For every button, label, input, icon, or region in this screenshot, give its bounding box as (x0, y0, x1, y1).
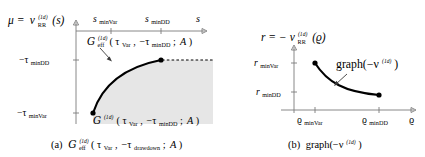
panel-a-yaxis-label-arg: (s) (52, 14, 64, 27)
panel-a-curve-label-arg2-sub: minDD (152, 41, 171, 48)
panel-b-curve-endpoint-right (376, 92, 381, 97)
panel-b-ytick-label-mindd-sub: minDD (262, 91, 281, 98)
panel-a-region-label-arg1-sub: Var (129, 120, 138, 127)
panel-a-caption-symbol: G (68, 138, 76, 150)
panel-a-label-pointer-arrowhead (107, 57, 112, 62)
panel-b-curve-label: graph(−ν (1d) ) (336, 52, 398, 71)
panel-a-yaxis-label-lhs: μ = (7, 14, 24, 27)
panel-b-yaxis-label-arg: (ϱ) (312, 31, 326, 44)
panel-a-xtick-label-minvar-base: s (93, 13, 97, 24)
panel-a-ytick-label-mindd-base: −τ (19, 54, 28, 65)
panel-b-yaxis-label: r = − ν (1d) RR (ϱ) (261, 26, 326, 46)
panel-b-ytick-label-minvar-sub: minVar (260, 62, 278, 69)
panel-a-yaxis-label-nu-sub: RR (38, 21, 47, 28)
panel-a-ytick-label-minvar: −τ minVar (17, 107, 47, 119)
panel-a-caption-comma: , (115, 139, 118, 150)
panel-b-xtick-label-mindd-sub: minDD (369, 119, 388, 126)
panel-a-caption-arg1-sub: Var (104, 144, 113, 151)
panel-b-caption-sup: (1d) (346, 139, 355, 146)
panel-b-yaxis-label-nu-sub: RR (298, 38, 307, 45)
panel-b-yaxis-label-nu: ν (290, 31, 296, 43)
panel-a-yaxis-label-nu: ν (30, 14, 36, 26)
panel-a-curve-label-sub: eff (97, 41, 105, 48)
panel-a-xtick-label-mindd-base: s (145, 13, 149, 24)
panel-b: r = − ν (1d) RR (ϱ) r minVar r minDD ϱ m… (254, 26, 416, 151)
panel-a: μ = ν (1d) RR (s) s minVar s minDD −τ mi… (7, 9, 213, 152)
panel-a-caption-sub: eff (79, 144, 87, 151)
panel-a-caption-arg1: τ (97, 139, 101, 150)
panel-a-curve-label-open: ( (109, 36, 113, 48)
panel-a-caption-semicolon: ; (163, 139, 166, 150)
panel-a-region-label-semicolon: ; (180, 115, 183, 126)
panel-b-caption-text: graph(−ν (306, 139, 344, 151)
panel-a-caption-open: ( (91, 139, 95, 151)
panel-b-curve-label-close: ) (394, 57, 398, 71)
panel-b-ytick-label-minvar: r minVar (254, 57, 278, 69)
panel-a-curve-label: G (1d) eff ( τ Var , −τ minDD ; A ) (87, 31, 192, 49)
panel-b-curve-label-text: graph(−ν (336, 57, 379, 71)
panel-b-caption-prefix: (b) (288, 139, 300, 151)
panel-a-yaxis-label: μ = ν (1d) RR (s) (7, 9, 65, 29)
panel-a-curve-label-close: ) (189, 36, 192, 48)
panel-b-xaxis-label: ϱ (409, 114, 414, 125)
panel-a-region-label-sup: (1d) (104, 114, 113, 121)
panel-b-xtick-label-minvar: ϱ minVar (297, 114, 323, 126)
panel-a-label-pointer (100, 48, 110, 59)
panel-b-ytick-label-mindd: r minDD (256, 86, 281, 98)
panel-a-caption: (a) G (1d) eff ( τ Var , −τ drawdown ; A… (51, 134, 182, 152)
panel-b-caption: (b) graph(−ν (1d) ) (288, 135, 362, 151)
figure-canvas: μ = ν (1d) RR (s) s minVar s minDD −τ mi… (0, 0, 425, 157)
panel-a-region-label-arg1: τ (122, 115, 126, 126)
panel-a-caption-close: ) (179, 139, 182, 151)
panel-b-curve-endpoint-left (312, 60, 317, 65)
panel-b-xtick-label-minvar-base: ϱ (297, 114, 302, 125)
panel-b-curve-label-sup: (1d) (382, 58, 391, 65)
panel-b-xtick-label-minvar-sub: minVar (304, 119, 322, 126)
panel-a-region-label-arg2-sub: minDD (159, 120, 178, 127)
panel-b-xtick-label-mindd: ϱ minDD (362, 114, 388, 126)
panel-a-curve-endpoint-upper (158, 57, 163, 62)
panel-a-region-label-close: ) (196, 115, 199, 127)
panel-a-curve-label-symbol: G (87, 36, 95, 47)
panel-b-ytick-label-minvar-base: r (254, 57, 258, 68)
figure-root: μ = ν (1d) RR (s) s minVar s minDD −τ mi… (0, 0, 425, 157)
panel-b-xtick-label-mindd-base: ϱ (362, 114, 367, 125)
panel-a-caption-arg3: A (169, 139, 177, 150)
panel-a-region-label-arg3: A (186, 115, 194, 126)
panel-a-curve-label-arg1: τ (115, 36, 119, 47)
panel-a-curve-label-semicolon: ; (173, 36, 176, 47)
panel-b-caption-close: ) (358, 139, 361, 151)
panel-a-ytick-label-minvar-sub: minVar (29, 112, 47, 119)
panel-b-yaxis-label-lhs: r = − (261, 31, 287, 43)
panel-a-caption-prefix: (a) (51, 139, 63, 151)
panel-a-xtick-label-mindd: s minDD (145, 13, 170, 25)
panel-a-xtick-label-minvar: s minVar (93, 13, 117, 25)
panel-a-curve-label-arg1-sub: Var (122, 41, 131, 48)
panel-a-xtick-label-mindd-sub: minDD (151, 18, 170, 25)
panel-a-xaxis-label: s (196, 13, 200, 24)
panel-a-caption-arg2: −τ (121, 139, 131, 150)
panel-a-curve-label-comma: , (133, 36, 136, 47)
panel-a-region-label-arg2: −τ (147, 115, 157, 126)
panel-b-ytick-label-mindd-base: r (256, 86, 260, 97)
panel-a-curve-label-arg2: −τ (139, 36, 149, 47)
panel-b-axes (281, 45, 416, 113)
panel-a-region-label-comma: , (140, 115, 143, 126)
panel-a-ytick-label-minvar-base: −τ (17, 107, 26, 118)
panel-a-caption-arg2-sub: drawdown (134, 144, 160, 151)
panel-a-curve-label-arg3: A (179, 36, 187, 47)
panel-a-xtick-label-minvar-sub: minVar (99, 18, 117, 25)
panel-a-ytick-label-mindd: −τ minDD (19, 54, 50, 66)
panel-a-region-label-symbol: G (93, 115, 101, 126)
panel-a-ytick-label-mindd-sub: minDD (31, 59, 50, 66)
panel-a-region-label-open: ( (116, 115, 120, 127)
